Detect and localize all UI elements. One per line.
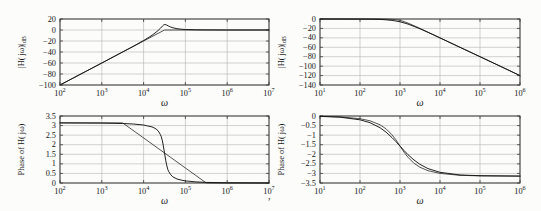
x-axis-label: ω [161, 195, 168, 206]
x-axis-label: ω [416, 195, 423, 206]
y-tick-label: 0.5 [46, 169, 56, 178]
y-tick-label: 0 [52, 26, 56, 35]
x-tick-label: 102 [354, 86, 365, 98]
series-straight-line-approximation [60, 30, 269, 85]
y-tick-label: −80 [303, 52, 316, 61]
lowpass-magnitude-plot: 1011021031041051060−20−40−60−80−100−120−… [270, 0, 541, 105]
y-tick-label: 2 [52, 140, 56, 149]
x-tick-label: 102 [54, 86, 65, 98]
x-tick-label: 105 [474, 86, 485, 98]
y-tick-label: 20 [48, 15, 56, 24]
series-exact-response [60, 123, 269, 183]
y-tick-label: 0 [52, 179, 56, 188]
x-tick-label: 102 [54, 184, 65, 196]
y-tick-label: −2 [307, 150, 316, 159]
y-tick-label: 1 [52, 159, 56, 168]
y-tick-label: 0 [312, 112, 316, 121]
y-axis-label: Phase of H( jω) [277, 123, 286, 175]
lowpass-phase-plot: 1011021031041051060−0.5−1−1.5−2−2.5−3−3.… [270, 105, 541, 211]
stray-comma-mark: , [268, 190, 271, 201]
x-tick-label: 105 [474, 184, 485, 196]
x-tick-label: 101 [314, 184, 325, 196]
x-tick-label: 105 [180, 86, 191, 98]
y-axis-label: |H( jω)|dB [17, 36, 27, 68]
x-tick-label: 103 [394, 86, 405, 98]
y-tick-label: −20 [303, 24, 316, 33]
y-tick-label: −100 [39, 81, 56, 90]
x-tick-label: 106 [222, 184, 233, 196]
x-tick-label: 104 [138, 86, 149, 98]
y-tick-label: −100 [299, 62, 316, 71]
x-tick-label: 106 [514, 184, 525, 196]
y-tick-label: −0.5 [301, 121, 316, 130]
y-tick-label: −60 [303, 43, 316, 52]
y-tick-label: −3 [307, 169, 316, 178]
y-tick-label: −2.5 [301, 159, 316, 168]
x-tick-label: 106 [514, 86, 525, 98]
x-tick-label: 103 [96, 184, 107, 196]
y-tick-label: −3.5 [301, 179, 316, 188]
y-tick-label: −140 [299, 81, 316, 90]
x-tick-label: 104 [434, 184, 445, 196]
highpass-magnitude-plot: 102103104105106107200−20−40−60−80−100ω|H… [0, 0, 270, 105]
y-tick-label: −40 [303, 33, 316, 42]
y-tick-label: −1.5 [301, 140, 316, 149]
x-tick-label: 103 [96, 86, 107, 98]
y-tick-label: −80 [43, 70, 56, 79]
y-tick-label: 3 [52, 121, 56, 130]
y-tick-label: 1.5 [46, 150, 56, 159]
x-tick-label: 102 [354, 184, 365, 196]
x-tick-label: 101 [314, 86, 325, 98]
plot-frame [320, 116, 520, 183]
x-tick-label: 105 [180, 184, 191, 196]
y-tick-label: 3.5 [46, 112, 56, 121]
y-tick-label: −1 [307, 131, 316, 140]
series-exact-response [60, 25, 269, 86]
y-tick-label: −120 [299, 71, 316, 80]
y-axis-label: Phase of H( jω) [17, 123, 26, 175]
plot-frame [60, 116, 269, 183]
y-tick-label: 0 [312, 15, 316, 24]
x-tick-label: 104 [434, 86, 445, 98]
x-tick-label: 103 [394, 184, 405, 196]
series-response-curve-1 [320, 116, 520, 176]
y-tick-label: −60 [43, 59, 56, 68]
x-tick-label: 104 [138, 184, 149, 196]
y-tick-label: −20 [43, 37, 56, 46]
highpass-phase-plot: 1021031041051061073.532.521.510.50ωPhase… [0, 105, 270, 211]
bode-plots-figure: 102103104105106107200−20−40−60−80−100ω|H… [0, 0, 541, 211]
x-tick-label: 106 [222, 86, 233, 98]
y-tick-label: 2.5 [46, 131, 56, 140]
y-axis-label: |H( jω)|dB [277, 36, 287, 68]
y-tick-label: −40 [43, 48, 56, 57]
